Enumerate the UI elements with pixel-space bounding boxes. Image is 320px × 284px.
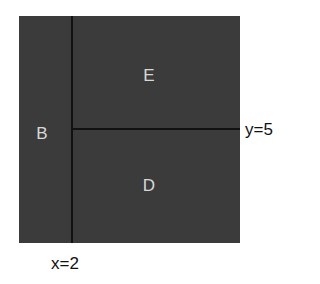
region-e-label: E — [143, 67, 154, 84]
horizontal-split-line — [72, 128, 240, 130]
horizontal-split-label: y=5 — [245, 121, 273, 138]
region-d-label: D — [143, 177, 155, 194]
region-b-label: B — [36, 125, 47, 142]
vertical-split-label: x=2 — [51, 255, 79, 272]
